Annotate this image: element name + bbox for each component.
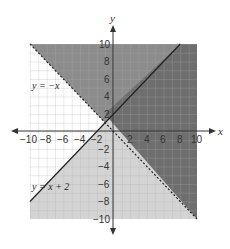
- svg-text:8: 8: [104, 56, 110, 67]
- y-axis-label: y: [109, 12, 115, 24]
- label-y-neg-x: y = −x: [31, 80, 60, 91]
- svg-text:6: 6: [104, 74, 110, 85]
- svg-text:−6: −6: [57, 134, 69, 145]
- svg-text:2: 2: [127, 134, 133, 145]
- x-axis-label: x: [217, 125, 223, 137]
- svg-text:2: 2: [104, 109, 110, 120]
- svg-text:4: 4: [104, 91, 110, 102]
- x-axis-arrow-right: [209, 128, 216, 134]
- inequality-graph: x y −10 −8 −6 −4 −2 2 4 6 8 10 10 8 6 4 …: [0, 0, 230, 249]
- svg-text:−4: −4: [98, 161, 110, 172]
- svg-text:10: 10: [99, 39, 111, 50]
- label-y-x-plus-2: y = x + 2: [31, 181, 69, 192]
- svg-text:−8: −8: [98, 196, 110, 207]
- x-axis-arrow-left: [11, 128, 18, 134]
- svg-text:−4: −4: [74, 134, 86, 145]
- svg-text:8: 8: [177, 134, 183, 145]
- svg-text:−6: −6: [98, 179, 110, 190]
- svg-text:−10: −10: [93, 214, 110, 225]
- svg-text:6: 6: [160, 134, 166, 145]
- svg-text:4: 4: [144, 134, 150, 145]
- svg-text:−10: −10: [20, 134, 37, 145]
- y-axis-arrow-up: [110, 25, 116, 32]
- y-axis-arrow-down: [110, 228, 116, 235]
- svg-text:10: 10: [191, 134, 203, 145]
- svg-text:−2: −2: [98, 144, 110, 155]
- svg-text:−8: −8: [40, 134, 52, 145]
